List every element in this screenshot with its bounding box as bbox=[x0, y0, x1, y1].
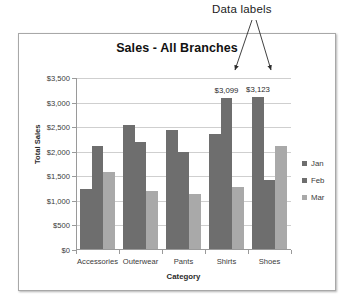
x-axis-category-label: Accessories bbox=[77, 257, 118, 266]
bar-shirts-mar[interactable] bbox=[232, 187, 244, 250]
chart-container: Sales - All Branches Total Sales $0$500$… bbox=[18, 33, 336, 291]
y-axis-tick-label: $3,500 bbox=[47, 74, 70, 83]
x-axis-category-label: Shoes bbox=[259, 257, 281, 266]
legend-item-mar[interactable]: Mar bbox=[302, 189, 324, 206]
x-axis-line bbox=[76, 249, 291, 250]
x-axis-tick-mark bbox=[205, 250, 206, 254]
data-label-shirts: $3,099 bbox=[215, 86, 239, 95]
bar-outerwear-jan[interactable] bbox=[123, 125, 135, 250]
x-axis-category-label: Pants bbox=[174, 257, 193, 266]
y-axis-title: Total Sales bbox=[33, 124, 42, 164]
x-axis-title: Category bbox=[76, 272, 291, 281]
bar-accessories-mar[interactable] bbox=[103, 172, 115, 250]
x-axis-tick-mark bbox=[76, 250, 77, 254]
gridline bbox=[76, 78, 291, 79]
x-axis-tick-mark bbox=[119, 250, 120, 254]
y-axis-tick-label: $3,000 bbox=[47, 98, 70, 107]
y-axis-tick-label: $2,000 bbox=[47, 147, 70, 156]
legend-label: Jan bbox=[311, 159, 324, 168]
bar-pants-jan[interactable] bbox=[166, 130, 178, 250]
y-axis-tick-label: $0 bbox=[62, 246, 70, 255]
annotation-label: Data labels bbox=[212, 3, 272, 15]
x-axis-tick-mark bbox=[248, 250, 249, 254]
bar-shoes-feb[interactable] bbox=[264, 180, 276, 250]
legend-item-jan[interactable]: Jan bbox=[302, 155, 324, 172]
x-axis-category-label: Shirts bbox=[217, 257, 236, 266]
bar-pants-feb[interactable] bbox=[178, 152, 190, 250]
y-axis-tick-label: $1,000 bbox=[47, 196, 70, 205]
x-axis-category-label: Outerwear bbox=[123, 257, 158, 266]
y-axis-line bbox=[76, 78, 77, 250]
bar-shoes-jan[interactable] bbox=[252, 97, 264, 250]
bar-accessories-jan[interactable] bbox=[80, 189, 92, 250]
data-label-shoes: $3,123 bbox=[246, 85, 270, 94]
bar-outerwear-feb[interactable] bbox=[135, 142, 147, 250]
legend-swatch-icon bbox=[302, 161, 307, 166]
plot-area: $0$500$1,000$1,500$2,000$2,500$3,000$3,5… bbox=[76, 78, 291, 250]
y-axis-tick-label: $1,500 bbox=[47, 172, 70, 181]
legend-swatch-icon bbox=[302, 178, 307, 183]
legend-item-feb[interactable]: Feb bbox=[302, 172, 324, 189]
chart-legend: JanFebMar bbox=[302, 155, 324, 206]
bar-shirts-jan[interactable] bbox=[209, 134, 221, 250]
legend-swatch-icon bbox=[302, 195, 307, 200]
y-axis-tick-label: $2,500 bbox=[47, 123, 70, 132]
x-axis-tick-mark bbox=[162, 250, 163, 254]
x-axis-tick-mark bbox=[291, 250, 292, 254]
bar-pants-mar[interactable] bbox=[189, 194, 201, 250]
legend-label: Feb bbox=[311, 176, 324, 185]
bar-shoes-mar[interactable] bbox=[275, 146, 287, 250]
bar-shirts-feb[interactable] bbox=[221, 98, 233, 250]
chart-title: Sales - All Branches bbox=[19, 41, 335, 55]
legend-label: Mar bbox=[311, 193, 324, 202]
y-axis-tick-label: $500 bbox=[53, 221, 70, 230]
bar-outerwear-mar[interactable] bbox=[146, 191, 158, 250]
bar-accessories-feb[interactable] bbox=[92, 146, 104, 250]
